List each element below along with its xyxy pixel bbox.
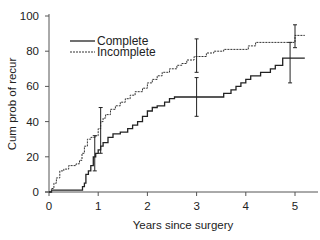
x-tick-label: 0 bbox=[46, 200, 52, 212]
y-tick-label: 0 bbox=[33, 186, 39, 198]
legend: Complete Incomplete bbox=[70, 34, 156, 59]
x-tick-label: 1 bbox=[95, 200, 101, 212]
x-axis-label: Years since surgery bbox=[133, 219, 234, 231]
y-tick-label: 20 bbox=[26, 151, 39, 163]
axes: 020406080100 012345 bbox=[20, 10, 318, 212]
y-tick-label: 100 bbox=[20, 10, 39, 22]
x-tick-label: 3 bbox=[193, 200, 199, 212]
y-ticks: 020406080100 bbox=[20, 10, 49, 198]
y-axis-label: Cum prob of recur bbox=[6, 57, 18, 150]
series-complete bbox=[49, 58, 305, 192]
x-ticks: 012345 bbox=[46, 192, 298, 212]
x-tick-label: 2 bbox=[144, 200, 150, 212]
y-tick-label: 40 bbox=[26, 116, 39, 128]
x-tick-label: 5 bbox=[292, 200, 298, 212]
legend-label-incomplete: Incomplete bbox=[97, 45, 156, 59]
x-tick-label: 4 bbox=[243, 200, 250, 212]
series-incomplete bbox=[49, 35, 305, 192]
kaplan-meier-chart: 020406080100 012345 Complete Incomplete … bbox=[0, 0, 320, 240]
y-tick-label: 80 bbox=[26, 45, 39, 57]
y-tick-label: 60 bbox=[26, 80, 39, 92]
series-layer bbox=[49, 25, 305, 192]
